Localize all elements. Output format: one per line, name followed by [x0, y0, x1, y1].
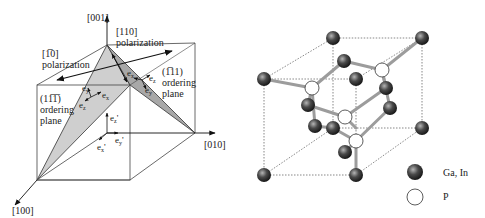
legend-ga-in-label: Ga, In	[443, 167, 468, 178]
axis-label-010: [010]	[204, 139, 226, 150]
legend-p-label: P	[443, 191, 449, 202]
polarization-110-index: [110]	[116, 26, 137, 37]
ex-label-right: ex	[127, 68, 134, 79]
legend-p-symbol	[407, 189, 423, 205]
plane-right-line1: ordering	[162, 77, 196, 88]
plane-left-line1: ordering	[40, 104, 74, 115]
axis-label-100: [100]	[12, 205, 34, 216]
legend: Ga, In P	[407, 164, 468, 205]
ey-label-right: ey	[145, 85, 152, 96]
ex-prime-label: ex'	[97, 142, 106, 153]
polarization-1bar10-label: polarization	[42, 59, 90, 70]
plane-left-line2: plane	[40, 115, 62, 126]
legend-ga-in-symbol	[407, 164, 423, 180]
ez-label-right: ez	[149, 73, 156, 84]
axis-100	[15, 180, 37, 205]
plane-right-line2: plane	[162, 88, 184, 99]
crystal-orientation-diagram: [001] [010] [100] [110] polarization [1̅…	[12, 12, 226, 216]
diagram-canvas: [001] [010] [100] [110] polarization [1̅…	[0, 0, 485, 218]
ez-prime-label: ez'	[110, 113, 119, 124]
cube-edge	[130, 133, 195, 180]
polarization-110-label: polarization	[116, 37, 164, 48]
polarization-1bar10-index: [1̅0]	[42, 48, 59, 59]
ey-prime-label: ey'	[115, 135, 124, 146]
axis-label-001: [001]	[87, 12, 109, 23]
zincblende-unit-cell: Ga, In P	[257, 31, 468, 205]
ex-prime-arrow	[99, 133, 107, 140]
